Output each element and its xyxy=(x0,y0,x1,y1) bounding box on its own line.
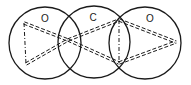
triangle-edge xyxy=(24,23,26,64)
triangle-edge xyxy=(119,41,176,62)
triangle-edge xyxy=(27,41,69,65)
triangle-edge xyxy=(25,39,67,63)
atom-label-oxygen-left: O xyxy=(41,13,49,24)
bond-triangles xyxy=(24,19,177,65)
triangle-edge xyxy=(24,22,68,39)
atom-labels: O C O xyxy=(41,12,154,24)
triangle-edge xyxy=(119,21,176,43)
atom-label-carbon: C xyxy=(89,12,96,23)
atom-label-oxygen-right: O xyxy=(146,13,154,24)
co2-molecule-diagram: O C O xyxy=(0,0,191,85)
